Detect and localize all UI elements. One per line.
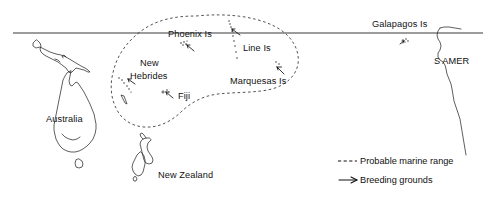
new-zealand-stewart-island (133, 177, 137, 181)
australia-great-australian-bight (62, 134, 80, 140)
label-new-hebrides-line2: Hebrides (130, 71, 168, 81)
label-new-zealand: New Zealand (158, 170, 213, 180)
label-fiji: Fiji (178, 91, 190, 101)
legend-label-breeding-grounds: Breeding grounds (360, 175, 433, 185)
legend-arrow-icon (339, 177, 357, 183)
line-is-dot-cluster (228, 20, 237, 58)
new-caledonia-outline (121, 95, 127, 104)
map-legend: Probable marine range Breeding grounds (338, 156, 453, 185)
map-figure: Phoenix Is Line Is New Hebrides Fiji Mar… (0, 0, 483, 203)
map-canvas: Phoenix Is Line Is New Hebrides Fiji Mar… (0, 0, 483, 203)
breeding-arrow-phoenix (187, 45, 194, 51)
breeding-arrow-galapagos (400, 41, 404, 44)
legend-label-probable-marine-range: Probable marine range (360, 156, 453, 166)
new-zealand-north-island (140, 138, 153, 164)
label-line-is: Line Is (243, 43, 271, 53)
label-australia: Australia (46, 114, 83, 124)
breeding-arrow-fiji (166, 92, 173, 98)
label-marquesas-is: Marquesas Is (230, 76, 287, 86)
label-s-amer: S AMER (434, 56, 470, 66)
new-guinea-outline (33, 40, 90, 73)
breeding-arrow-line (232, 29, 240, 35)
phoenix-is-dot-cluster (180, 40, 187, 45)
label-phoenix-is: Phoenix Is (168, 29, 212, 39)
marquesas-is-dot-cluster (275, 61, 281, 68)
breeding-arrow-marquesas (277, 67, 284, 74)
tasmania-outline (75, 159, 83, 168)
label-new-hebrides-line1: New (140, 58, 159, 68)
south-america-west-coast (437, 28, 466, 155)
label-galapagos-is: Galapagos Is (372, 19, 428, 29)
south-america-north-coast (440, 27, 461, 29)
